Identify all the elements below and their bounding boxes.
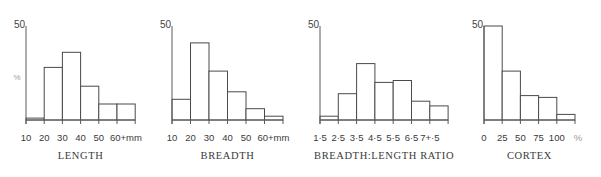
x-tick-label: 7+·5	[420, 132, 439, 143]
histogram-bar	[44, 67, 62, 120]
x-tick-label: 30	[204, 132, 215, 143]
x-tick-label: 10	[21, 132, 32, 143]
histogram-bar	[520, 96, 538, 120]
histogram-breadth-length-ratio: 501·52·53·54·55·56·57+·5BREADTH:LENGTH R…	[308, 19, 454, 161]
y-max-label: 50	[308, 19, 320, 30]
x-tick-label: 60+mm	[110, 132, 142, 143]
histogram-bar	[412, 101, 430, 120]
histogram-bar	[484, 26, 502, 120]
histogram-breadth: 50102030405060+mmBREADTH	[160, 19, 290, 161]
x-tick-label: 4·5	[368, 132, 382, 143]
histogram-length: 50%102030405060+mmLENGTH	[13, 19, 142, 161]
y-max-label: 50	[160, 19, 172, 30]
histogram-bar	[191, 43, 210, 120]
x-tick-label: 1·5	[313, 132, 327, 143]
x-tick-label: 50	[241, 132, 252, 143]
x-tick-label: 30	[57, 132, 68, 143]
chart-title: LENGTH	[58, 150, 104, 161]
histogram-bar	[265, 116, 284, 120]
histogram-bar	[209, 71, 228, 120]
histogram-bar	[62, 52, 80, 120]
x-tick-label: 40	[222, 132, 233, 143]
chart-title: BREADTH	[201, 150, 255, 161]
x-tick-label: 20	[185, 132, 196, 143]
histogram-figure: 50%102030405060+mmLENGTH50102030405060+m…	[0, 0, 601, 177]
x-tick-label: 75	[533, 132, 544, 143]
y-max-label: 50	[472, 19, 484, 30]
x-tick-label: 3·5	[350, 132, 364, 143]
x-tick-label: 6·5	[405, 132, 419, 143]
x-tick-label: 60+mm	[258, 132, 290, 143]
histogram-bar	[320, 116, 338, 120]
chart-title: BREADTH:LENGTH RATIO	[314, 150, 454, 161]
histogram-bar	[81, 86, 99, 120]
y-max-label: 50	[14, 19, 26, 30]
histogram-bar	[117, 104, 135, 120]
x-tick-label: 50	[94, 132, 105, 143]
histogram-bar	[375, 82, 393, 120]
histogram-bar	[99, 104, 117, 120]
x-tick-label: 40	[75, 132, 86, 143]
histogram-bar	[338, 94, 356, 120]
y-unit-label: %	[13, 73, 20, 82]
x-tick-label: 0	[481, 132, 486, 143]
x-tick-label: %	[574, 132, 583, 143]
histogram-panels: 50%102030405060+mmLENGTH50102030405060+m…	[0, 0, 601, 177]
x-tick-label: 5·5	[386, 132, 400, 143]
histogram-bar	[246, 109, 265, 120]
histogram-bar	[357, 64, 375, 120]
histogram-bar	[172, 99, 191, 120]
x-tick-label: 2·5	[331, 132, 345, 143]
histogram-bar	[502, 71, 520, 120]
x-tick-label: 50	[515, 132, 526, 143]
histogram-bar	[228, 92, 247, 120]
chart-title: CORTEX	[507, 150, 552, 161]
histogram-bar	[393, 81, 411, 121]
histogram-cortex: 500255075100%CORTEX	[472, 19, 583, 161]
histogram-bar	[430, 106, 448, 120]
x-tick-label: 100	[549, 132, 565, 143]
x-tick-label: 25	[497, 132, 508, 143]
histogram-bar	[539, 97, 557, 120]
x-tick-label: 20	[39, 132, 50, 143]
histogram-bar	[557, 114, 575, 120]
x-tick-label: 10	[167, 132, 178, 143]
